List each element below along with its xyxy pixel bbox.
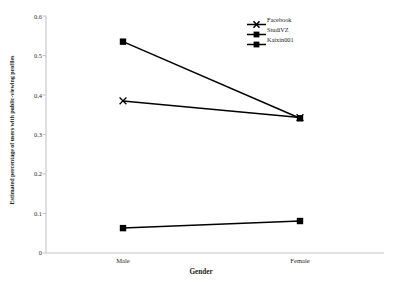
series-layer bbox=[120, 38, 304, 231]
series-line bbox=[123, 221, 300, 228]
legend-item-studivz: StudiVZ bbox=[247, 25, 337, 34]
line-chart: Estimated percentage of users with publi… bbox=[0, 0, 402, 286]
legend-label: StudiVZ bbox=[266, 26, 289, 33]
legend-marker-square-icon bbox=[247, 25, 266, 34]
data-point-marker bbox=[297, 115, 303, 121]
legend-label: Kaixin001 bbox=[266, 36, 294, 43]
legend: Facebook StudiVZ Kaixin001 bbox=[247, 15, 337, 45]
legend-label: Facebook bbox=[266, 16, 291, 23]
series-facebook bbox=[120, 98, 304, 121]
data-point-marker bbox=[120, 38, 126, 44]
legend-item-kaixin001: Kaixin001 bbox=[247, 35, 337, 44]
series-line bbox=[123, 42, 300, 119]
series-kaixin001 bbox=[120, 218, 303, 232]
data-point-marker bbox=[297, 218, 303, 224]
data-point-marker bbox=[120, 225, 126, 231]
plot-area bbox=[0, 0, 402, 286]
legend-item-facebook: Facebook bbox=[247, 15, 337, 24]
legend-marker-x-icon bbox=[247, 15, 266, 24]
series-line bbox=[123, 101, 300, 118]
legend-marker-square-icon bbox=[247, 35, 266, 44]
